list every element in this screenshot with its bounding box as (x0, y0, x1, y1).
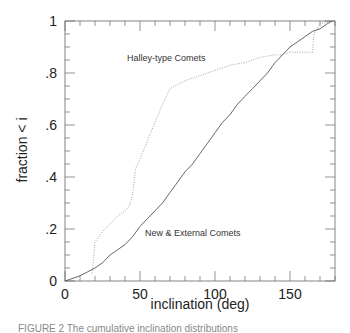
y-tick-label: .2 (45, 221, 57, 237)
y-tick-label: 0 (49, 273, 57, 289)
x-tick-label: 0 (61, 286, 69, 302)
figure-caption: FIGURE 2 The cumulative inclination dist… (18, 323, 238, 333)
cumulative-inclination-chart: 0501001500.2.4.6.81 Halley-type Comets N… (0, 0, 350, 333)
y-axis-title: fraction < i (14, 118, 30, 183)
annotation-halley-type-comets: Halley-type Comets (127, 53, 206, 63)
y-tick-label: .6 (45, 117, 57, 133)
y-tick-label: .4 (45, 169, 57, 185)
y-tick-label: .8 (45, 65, 57, 81)
x-axis-title: inclination (deg) (151, 296, 250, 312)
x-tick-label: 150 (278, 286, 302, 302)
annotation-new-external-comets: New & External Comets (145, 228, 241, 238)
y-tick-label: 1 (49, 13, 57, 29)
x-tick-label: 50 (132, 286, 148, 302)
